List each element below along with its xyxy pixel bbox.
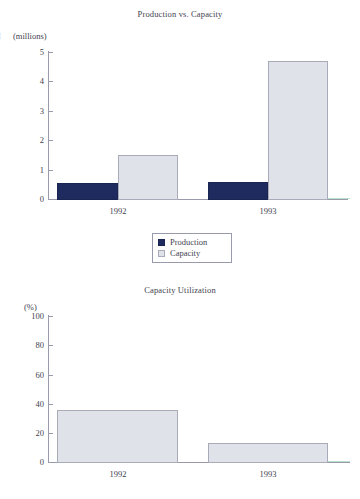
legend-item-capacity: Capacity <box>158 248 224 259</box>
y-tick-40-utilization <box>49 404 53 405</box>
y-tick-label-4-production: 4 <box>20 77 44 86</box>
y-tick-5-production <box>49 52 53 53</box>
bar-production-1993 <box>208 182 268 200</box>
y-axis-line-production <box>48 51 49 200</box>
legend-label-capacity: Capacity <box>170 249 200 258</box>
y-tick-0-utilization <box>49 462 53 463</box>
y-tick-20-utilization <box>49 433 53 434</box>
y-tick-100-utilization <box>49 316 53 317</box>
y-tick-0-production <box>49 199 53 200</box>
y-axis-line-utilization <box>48 315 49 463</box>
y-tick-label-3-production: 3 <box>20 107 44 116</box>
bar-capacity-1993 <box>268 61 328 200</box>
y-tick-label-2-production: 2 <box>20 136 44 145</box>
bar-utilization-1992 <box>57 410 178 463</box>
y-tick-60-utilization <box>49 375 53 376</box>
x-category-label-1993-production: 1993 <box>238 207 298 216</box>
chart-title-production: Production vs. Capacity <box>0 9 360 19</box>
y-tick-2-production <box>49 140 53 141</box>
legend-production-capacity: Production Capacity <box>152 233 232 263</box>
y-tick-label-100-utilization: 100 <box>14 312 44 321</box>
y-tick-3-production <box>49 111 53 112</box>
y-tick-label-0-production: 0 <box>20 195 44 204</box>
left-edge-clipped-glyph: I <box>0 31 8 41</box>
y-tick-label-0-utilization: 0 <box>14 458 44 467</box>
chart-capacity-utilization: Capacity Utilization (%) 100 80 60 40 20… <box>0 280 360 499</box>
y-tick-label-60-utilization: 60 <box>14 371 44 380</box>
legend-swatch-capacity-icon <box>158 250 165 257</box>
y-tick-label-80-utilization: 80 <box>14 341 44 350</box>
legend-item-production: Production <box>158 237 224 248</box>
y-tick-1-production <box>49 170 53 171</box>
y-axis-unit-label-millions: (millions) <box>13 31 47 41</box>
chart-title-utilization: Capacity Utilization <box>0 285 360 295</box>
y-tick-label-5-production: 5 <box>20 48 44 57</box>
chart-production-vs-capacity: Production vs. Capacity I (millions) 5 4… <box>0 0 360 280</box>
y-tick-label-40-utilization: 40 <box>14 400 44 409</box>
bar-production-1992 <box>57 183 118 200</box>
y-tick-80-utilization <box>49 345 53 346</box>
bar-capacity-1992 <box>118 155 178 200</box>
x-category-label-1992-utilization: 1992 <box>88 470 148 479</box>
bar-utilization-1993 <box>208 443 328 463</box>
y-tick-label-20-utilization: 20 <box>14 429 44 438</box>
legend-label-production: Production <box>170 238 207 247</box>
y-tick-4-production <box>49 81 53 82</box>
legend-swatch-production-icon <box>158 239 165 246</box>
x-category-label-1992-production: 1992 <box>88 207 148 216</box>
x-category-label-1993-utilization: 1993 <box>238 470 298 479</box>
y-tick-label-1-production: 1 <box>20 166 44 175</box>
